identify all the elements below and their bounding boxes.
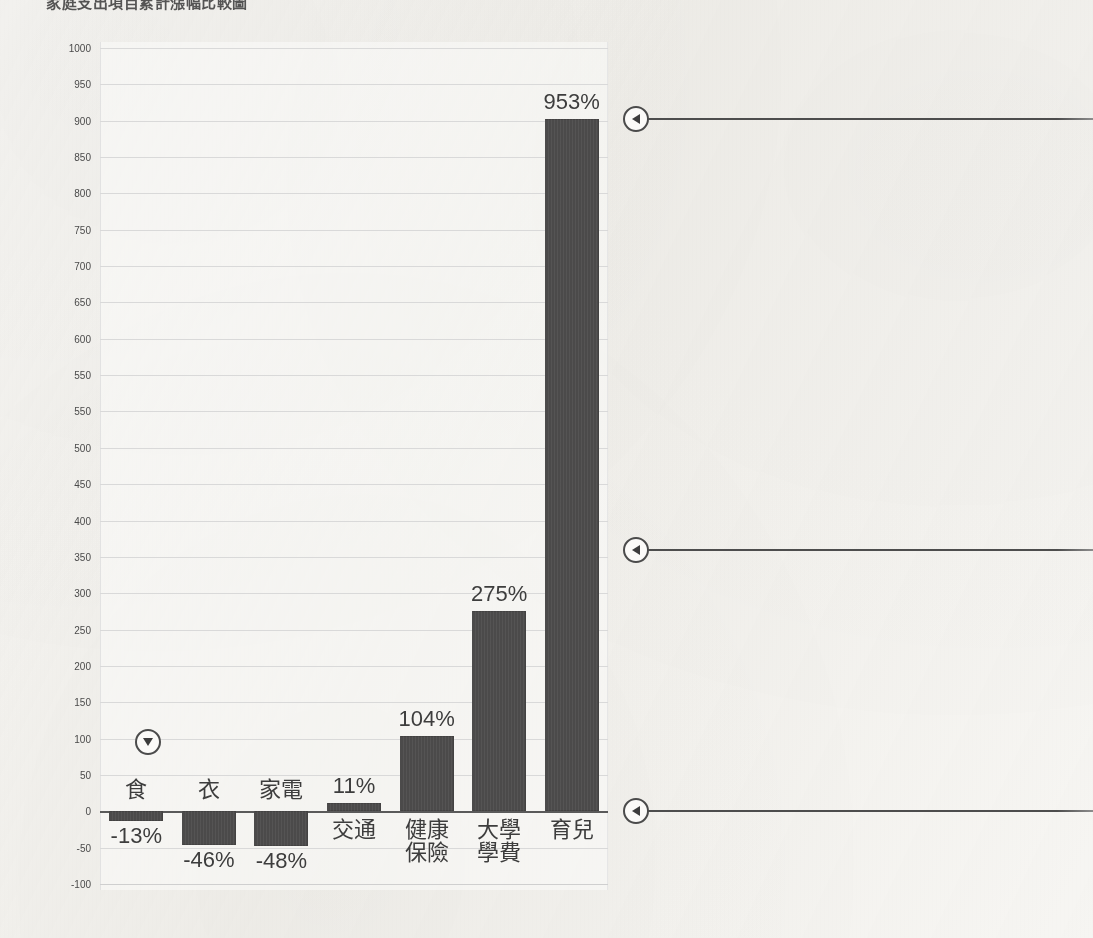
circle-triangle-left-icon[interactable] bbox=[623, 537, 649, 563]
bar-value-label: 953% bbox=[544, 89, 600, 115]
y-axis-tick-label: 100 bbox=[74, 733, 91, 744]
gridline bbox=[100, 411, 608, 412]
gridline bbox=[100, 339, 608, 340]
bar[interactable] bbox=[400, 736, 454, 812]
gridline bbox=[100, 593, 608, 594]
bar-category-line: 家電 bbox=[259, 779, 303, 802]
bar-category-line: 保險 bbox=[405, 842, 449, 865]
bar[interactable] bbox=[327, 803, 381, 811]
circle-triangle-left-icon[interactable] bbox=[623, 798, 649, 824]
y-axis-tick-label: 850 bbox=[74, 152, 91, 163]
y-axis-tick-label: 800 bbox=[74, 188, 91, 199]
bar-category-line: 學費 bbox=[477, 842, 521, 865]
gridline bbox=[100, 884, 608, 885]
gridline bbox=[100, 521, 608, 522]
gridline bbox=[100, 193, 608, 194]
bar-category-label: 食 bbox=[125, 779, 147, 802]
y-axis-tick-label: 900 bbox=[74, 115, 91, 126]
gridline bbox=[100, 157, 608, 158]
y-axis-tick-label: 950 bbox=[74, 79, 91, 90]
bar-value-label: -48% bbox=[256, 848, 307, 874]
y-axis-tick-label: 0 bbox=[85, 806, 91, 817]
bar-category-line: 衣 bbox=[198, 779, 220, 802]
y-axis-tick-label: 700 bbox=[74, 261, 91, 272]
bar[interactable] bbox=[545, 119, 599, 812]
y-axis-tick-label: 150 bbox=[74, 697, 91, 708]
bar-category-line: 育兒 bbox=[550, 819, 594, 842]
y-axis-tick-label: 200 bbox=[74, 660, 91, 671]
bar-value-label: -46% bbox=[183, 847, 234, 873]
bar-category-line: 健康 bbox=[405, 819, 449, 842]
bar-category-label: 家電 bbox=[259, 779, 303, 802]
bar-value-label: 11% bbox=[333, 773, 375, 799]
gridline bbox=[100, 557, 608, 558]
bar-value-label: 104% bbox=[398, 706, 454, 732]
callout-leader-line bbox=[645, 549, 1093, 551]
axis-left-spine bbox=[100, 42, 101, 890]
bar-category-label: 衣 bbox=[198, 779, 220, 802]
y-axis-tick-label: -50 bbox=[77, 842, 91, 853]
plot-background bbox=[100, 42, 608, 890]
bar-category-label: 大學學費 bbox=[477, 819, 521, 865]
y-axis-tick-label: 300 bbox=[74, 588, 91, 599]
gridline bbox=[100, 702, 608, 703]
bar-category-line: 食 bbox=[125, 779, 147, 802]
bar-category-line: 大學 bbox=[477, 819, 521, 842]
y-axis-tick-label: 50 bbox=[80, 769, 91, 780]
bar[interactable] bbox=[254, 811, 308, 846]
bar[interactable] bbox=[182, 811, 236, 844]
bar[interactable] bbox=[472, 611, 526, 811]
y-axis-tick-label: 550 bbox=[74, 406, 91, 417]
triangle-left-glyph bbox=[632, 545, 640, 555]
page-title: 家庭支出項目累計漲幅比較圖 bbox=[46, 0, 248, 12]
gridline bbox=[100, 48, 608, 49]
gridline bbox=[100, 448, 608, 449]
circle-triangle-down-icon[interactable] bbox=[135, 729, 161, 755]
y-axis-tick-label: 550 bbox=[74, 370, 91, 381]
gridline bbox=[100, 484, 608, 485]
gridline bbox=[100, 739, 608, 740]
y-axis-tick-label: 1000 bbox=[69, 43, 91, 54]
triangle-left-glyph bbox=[632, 114, 640, 124]
gridline bbox=[100, 630, 608, 631]
bar-category-label: 交通 bbox=[332, 819, 376, 842]
bar-value-label: 275% bbox=[471, 581, 527, 607]
y-axis-tick-label: 600 bbox=[74, 333, 91, 344]
y-axis-tick-label: 400 bbox=[74, 515, 91, 526]
gridline bbox=[100, 375, 608, 376]
circle-triangle-left-icon[interactable] bbox=[623, 106, 649, 132]
chart-plot-area: 1000950900850800750700650600550550500450… bbox=[100, 42, 608, 890]
y-axis-tick-label: -100 bbox=[71, 879, 91, 890]
gridline bbox=[100, 266, 608, 267]
bar-category-label: 育兒 bbox=[550, 819, 594, 842]
y-axis-tick-label: 250 bbox=[74, 624, 91, 635]
y-axis-tick-label: 750 bbox=[74, 224, 91, 235]
y-axis-tick-label: 650 bbox=[74, 297, 91, 308]
triangle-down-glyph bbox=[143, 738, 153, 746]
callout-leader-line bbox=[645, 810, 1093, 812]
gridline bbox=[100, 302, 608, 303]
y-axis-tick-label: 350 bbox=[74, 551, 91, 562]
gridline bbox=[100, 121, 608, 122]
gridline bbox=[100, 84, 608, 85]
y-axis-tick-label: 450 bbox=[74, 479, 91, 490]
gridline bbox=[100, 848, 608, 849]
bar-category-line: 交通 bbox=[332, 819, 376, 842]
y-axis-tick-label: 500 bbox=[74, 442, 91, 453]
gridline bbox=[100, 666, 608, 667]
zero-line bbox=[100, 811, 608, 813]
bar[interactable] bbox=[109, 811, 163, 820]
callout-leader-line bbox=[645, 118, 1093, 120]
gridline bbox=[100, 230, 608, 231]
bar-value-label: -13% bbox=[111, 823, 162, 849]
bar-category-label: 健康保險 bbox=[405, 819, 449, 865]
axis-right-spine bbox=[607, 42, 608, 890]
triangle-left-glyph bbox=[632, 806, 640, 816]
